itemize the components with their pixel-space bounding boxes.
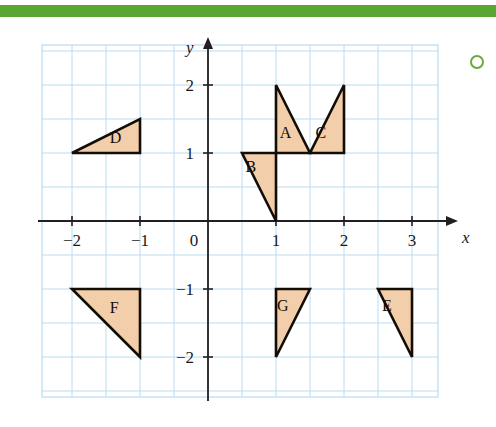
origin-label: 0 bbox=[190, 231, 199, 250]
x-tick-label: 3 bbox=[408, 231, 417, 250]
x-tick-label: −2 bbox=[63, 231, 81, 250]
y-tick-label: 1 bbox=[186, 144, 195, 163]
triangle-label-g: G bbox=[277, 297, 289, 314]
triangle-label-a: A bbox=[280, 124, 292, 141]
y-tick-label: −2 bbox=[176, 348, 194, 367]
triangle-label-f: F bbox=[110, 299, 119, 316]
y-tick-label: −1 bbox=[176, 280, 194, 299]
triangle-label-c: C bbox=[316, 124, 327, 141]
coordinate-grid-figure: −2−1012321−1−2xyABCDEFG bbox=[0, 20, 496, 427]
triangle-label-b: B bbox=[246, 158, 257, 175]
accent-bar bbox=[0, 5, 496, 17]
page-root: −2−1012321−1−2xyABCDEFG bbox=[0, 0, 496, 427]
y-tick-label: 2 bbox=[186, 76, 195, 95]
coordinate-plane-svg: −2−1012321−1−2xyABCDEFG bbox=[0, 20, 496, 427]
circle-outline-icon bbox=[470, 55, 484, 69]
x-tick-label: −1 bbox=[131, 231, 149, 250]
x-tick-label: 1 bbox=[272, 231, 281, 250]
x-tick-label: 2 bbox=[340, 231, 349, 250]
x-axis-label: x bbox=[461, 228, 470, 247]
axes bbox=[38, 37, 458, 401]
triangle-label-e: E bbox=[382, 297, 392, 314]
y-axis-label: y bbox=[184, 38, 194, 57]
triangle-label-d: D bbox=[110, 129, 122, 146]
